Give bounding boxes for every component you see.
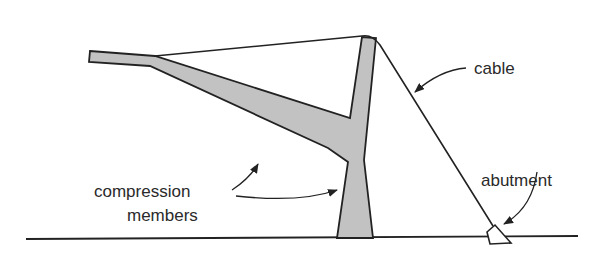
tie-chord bbox=[155, 36, 362, 56]
compression-arrow-arm-2 bbox=[232, 180, 250, 192]
label-abutment: abutment bbox=[481, 171, 552, 190]
abutment bbox=[487, 225, 511, 244]
label-compression: compression bbox=[94, 182, 190, 201]
diagram-canvas: compression members cable abutment bbox=[0, 0, 604, 264]
label-members: members bbox=[127, 206, 198, 225]
cable-arrow bbox=[415, 68, 466, 92]
compression-arrow-arm bbox=[232, 164, 258, 190]
label-cable: cable bbox=[474, 59, 515, 78]
compression-arrow-mast bbox=[236, 190, 337, 198]
structure-diagram: compression members cable abutment bbox=[0, 0, 604, 264]
